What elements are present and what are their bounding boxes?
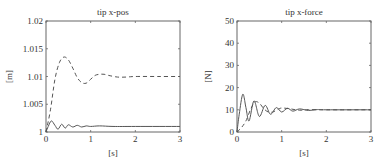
y-tick-label: 1.02 (27, 16, 43, 26)
x-tick-label: 2 (324, 134, 329, 144)
solid-series-line (46, 121, 180, 132)
x-tick-label: 0 (235, 134, 240, 144)
y-tick-label: 1.01 (27, 72, 43, 82)
x-axis-label: [s] (299, 148, 309, 158)
x-tick-label: 1 (88, 134, 93, 144)
chart-canvas: 012311.0051.011.0151.02tip x-pos[s][m]01… (0, 0, 382, 161)
x-tick-label: 3 (178, 134, 183, 144)
x-tick-label: 1 (279, 134, 284, 144)
x-tick-label: 2 (133, 134, 138, 144)
dashed-series-line (237, 102, 371, 132)
y-tick-label: 20 (225, 83, 235, 93)
y-tick-label: 50 (225, 16, 235, 26)
y-tick-label: 30 (225, 60, 235, 70)
chart-title: tip x-pos (97, 7, 129, 17)
y-tick-label: 1.005 (23, 99, 44, 109)
solid-series-line (237, 94, 371, 132)
y-tick-label: 10 (225, 105, 235, 115)
x-tick-label: 3 (369, 134, 374, 144)
axes-frame (237, 21, 371, 132)
tip-x-pos-plot: 012311.0051.011.0151.02tip x-pos[s][m] (4, 7, 183, 158)
x-axis-label: [s] (108, 148, 118, 158)
y-axis-label: [N] (203, 70, 213, 83)
dashed-series-line (46, 57, 180, 132)
tip-x-force-plot: 012301020304050tip x-force[s][N] (203, 7, 374, 158)
y-axis-label: [m] (4, 70, 14, 83)
y-tick-label: 1.015 (23, 44, 44, 54)
x-tick-label: 0 (44, 134, 49, 144)
y-tick-label: 40 (225, 38, 235, 48)
chart-title: tip x-force (285, 7, 323, 17)
y-tick-label: 1 (39, 127, 44, 137)
y-tick-label: 0 (230, 127, 235, 137)
